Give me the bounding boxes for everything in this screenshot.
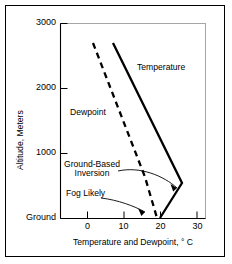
y-tick-label-2000: 2000 — [18, 83, 56, 93]
inversion-annotation-arrow — [118, 170, 177, 192]
series-label-dewpoint: Dewpoint — [70, 108, 106, 117]
fog-annotation-arrow — [101, 198, 145, 216]
annotation-inversion-line2: Inversion — [62, 169, 122, 178]
x-axis-title: Temperature and Dewpoint, ° C — [48, 238, 218, 247]
x-tick-label-30: 30 — [185, 222, 210, 232]
y-axis-title: Altitude, Meters — [16, 110, 25, 170]
y-tick-label-3000: 3000 — [18, 18, 56, 28]
x-tick-label-10: 10 — [111, 222, 136, 232]
y-tick-label-ground: Ground — [8, 213, 56, 223]
x-tick-label-20: 20 — [148, 222, 173, 232]
annotation-fog-likely: Fog Likely — [66, 189, 105, 198]
series-label-temperature: Temperature — [137, 63, 185, 72]
figure-container: 3000 2000 1000 Ground 0 10 20 30 Tempera… — [0, 0, 232, 264]
x-tick-label-0: 0 — [75, 222, 100, 232]
